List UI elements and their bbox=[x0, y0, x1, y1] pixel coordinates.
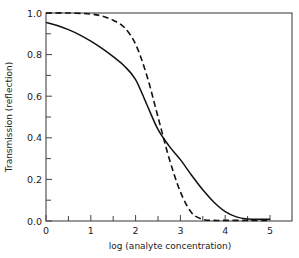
y-tick-label: 0.0 bbox=[27, 216, 42, 227]
series-layer bbox=[46, 13, 270, 221]
x-tick-label: 5 bbox=[267, 225, 273, 236]
y-tick-label: 0.4 bbox=[27, 132, 42, 143]
x-tick-label: 1 bbox=[88, 225, 94, 236]
dashed-curve bbox=[46, 13, 270, 221]
y-axis-ticks: 0.00.20.40.60.81.0 bbox=[27, 8, 52, 227]
y-axis-title: Transmission (reflection) bbox=[4, 62, 14, 173]
y-tick-label: 0.2 bbox=[27, 174, 42, 185]
x-tick-label: 2 bbox=[133, 225, 139, 236]
y-tick-label: 0.6 bbox=[27, 91, 42, 102]
y-tick-label: 0.8 bbox=[27, 49, 42, 60]
transmission-chart: 012345 0.00.20.40.60.81.0 log (analyte c… bbox=[0, 0, 299, 258]
plot-frame bbox=[46, 13, 292, 221]
x-tick-label: 3 bbox=[177, 225, 183, 236]
x-axis-title: log (analyte concentration) bbox=[109, 241, 231, 251]
solid-curve bbox=[46, 22, 270, 219]
x-tick-label: 0 bbox=[43, 225, 49, 236]
y-tick-label: 1.0 bbox=[27, 8, 42, 19]
x-tick-label: 4 bbox=[222, 225, 228, 236]
